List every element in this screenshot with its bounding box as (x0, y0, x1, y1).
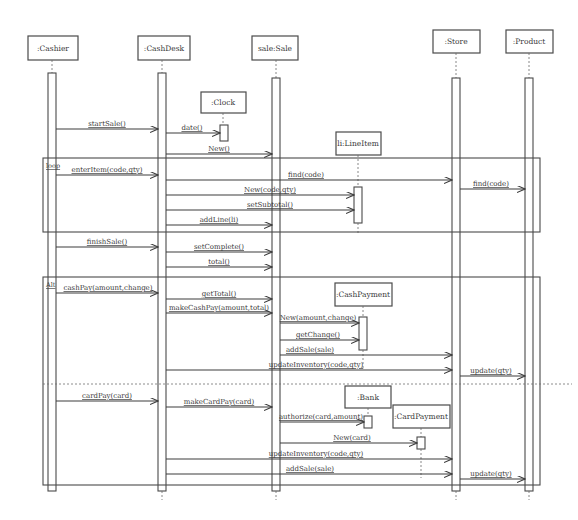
activation-bar-cashdesk (158, 73, 166, 491)
message-label: find(code) (288, 171, 324, 179)
message-label: setComplete() (194, 243, 244, 251)
activation-bar-lineitem (354, 187, 362, 223)
lifeline-clock: :Clock (201, 92, 246, 141)
object-label-cashdesk: :CashDesk (144, 44, 185, 53)
object-label-cashpayment: :CashPayment (336, 290, 390, 299)
message-label: New(amount,change) (280, 314, 357, 322)
message-total: total() (166, 258, 272, 267)
message-setComplete: setComplete() (166, 243, 272, 252)
message-find-code-store: find(code) (166, 171, 452, 180)
message-label: makeCashPay(amount,total) (169, 304, 269, 312)
message-label: enterItem(code,qty) (71, 166, 142, 174)
message-label: addSale(sale) (286, 346, 334, 354)
activation-bar-product (525, 78, 533, 491)
lifeline-cashdesk: :CashDesk (138, 36, 190, 491)
message-label: New(code,qty) (244, 186, 296, 194)
object-label-cashier: :Cashier (37, 44, 69, 53)
message-label: startSale() (88, 120, 126, 128)
message-label: update(qty) (470, 367, 512, 375)
alt-frame-label: Alt (45, 281, 56, 289)
object-label-bank: :Bank (357, 393, 379, 402)
message-label: addSale(sale) (286, 465, 334, 473)
message-label: date() (181, 124, 202, 132)
activation-bar-cashpayment (359, 317, 367, 350)
lifeline-lineitem: li:LineItem (336, 132, 381, 235)
object-label-clock: :Clock (211, 98, 235, 107)
message-startSale: startSale() (56, 120, 158, 129)
message-new-cardpayment: New(card) (280, 434, 417, 443)
loop-frame-label: loop (46, 162, 60, 170)
message-enterItem: enterItem(code,qty) (56, 166, 158, 175)
lifeline-sale: sale:Sale (252, 36, 298, 491)
message-label: updateInventory(code,qty) (269, 450, 364, 458)
message-label: getTotal() (202, 290, 237, 298)
message-getTotal: getTotal() (166, 290, 272, 299)
message-label: cashPay(amount,change) (64, 284, 153, 292)
message-label: setSubtotal() (247, 201, 293, 209)
activation-bar-store (452, 78, 460, 491)
message-updateInventory-cash: updateInventory(code,qty) (166, 361, 452, 370)
message-label: addLine(li) (200, 216, 239, 224)
message-update-qty-cash: update(qty) (460, 367, 525, 376)
message-label: authorize(card,amount) (279, 413, 363, 421)
object-label-sale: sale:Sale (258, 44, 293, 53)
message-label: getChange() (296, 331, 340, 339)
message-addLine: addLine(li) (166, 216, 272, 225)
activation-bar-cardpayment (417, 437, 425, 449)
message-makeCardPay: makeCardPay(card) (166, 398, 272, 407)
activation-bar-clock (220, 125, 228, 141)
object-label-lineitem: li:LineItem (337, 139, 379, 148)
message-label: finishSale() (87, 238, 128, 246)
message-label: update(qty) (470, 470, 512, 478)
message-date: date() (166, 124, 220, 133)
message-finishSale: finishSale() (56, 238, 158, 247)
message-setSubtotal: setSubtotal() (166, 201, 354, 210)
lifeline-product: :Product (506, 30, 553, 491)
message-label: cardPay(card) (82, 392, 132, 400)
message-label: updateInventory(code,qty) (269, 361, 364, 369)
message-makeCashPay: makeCashPay(amount,total) (166, 304, 272, 313)
message-label: find(code) (473, 180, 509, 188)
object-label-cardpayment: :CardPayment (394, 412, 448, 421)
message-addSale-card: addSale(sale) (166, 465, 452, 474)
lifeline-cashier: :Cashier (28, 36, 78, 491)
object-label-product: :Product (513, 37, 546, 46)
object-label-store: :Store (444, 37, 468, 46)
message-label: New(card) (333, 434, 371, 442)
message-cardPay: cardPay(card) (56, 392, 158, 401)
activation-bar-bank (364, 416, 372, 428)
message-authorize: authorize(card,amount) (279, 413, 364, 422)
message-label: total() (208, 258, 230, 266)
message-find-code-product: find(code) (460, 180, 525, 189)
message-new-sale: New() (166, 145, 272, 154)
sequence-diagram: :Cashier :CashDesk sale:Sale :Store :Pro… (0, 0, 578, 520)
message-updateInventory-card: updateInventory(code,qty) (166, 450, 452, 459)
lifeline-cardpayment: :CardPayment (393, 405, 450, 478)
message-new-cashpayment: New(amount,change) (280, 314, 359, 323)
message-label: makeCardPay(card) (184, 398, 255, 406)
message-label: New() (208, 145, 230, 153)
message-cashPay: cashPay(amount,change) (56, 284, 158, 293)
message-getChange: getChange() (280, 331, 359, 340)
activation-bar-sale (272, 78, 280, 491)
message-new-lineitem: New(code,qty) (166, 186, 354, 195)
message-update-qty-card: update(qty) (460, 470, 525, 479)
